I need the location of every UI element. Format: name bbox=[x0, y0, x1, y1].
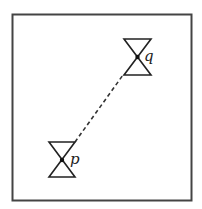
edge-p-q-dashed bbox=[75, 75, 123, 142]
node-q-label: q bbox=[144, 47, 154, 65]
node-p-dot bbox=[60, 158, 64, 162]
node-p-label: p bbox=[70, 150, 80, 168]
node-q: q bbox=[124, 39, 154, 75]
frame-border bbox=[13, 15, 192, 201]
node-q-dot bbox=[135, 55, 139, 59]
diagram-canvas: q p bbox=[0, 0, 202, 209]
node-p: p bbox=[49, 142, 80, 177]
